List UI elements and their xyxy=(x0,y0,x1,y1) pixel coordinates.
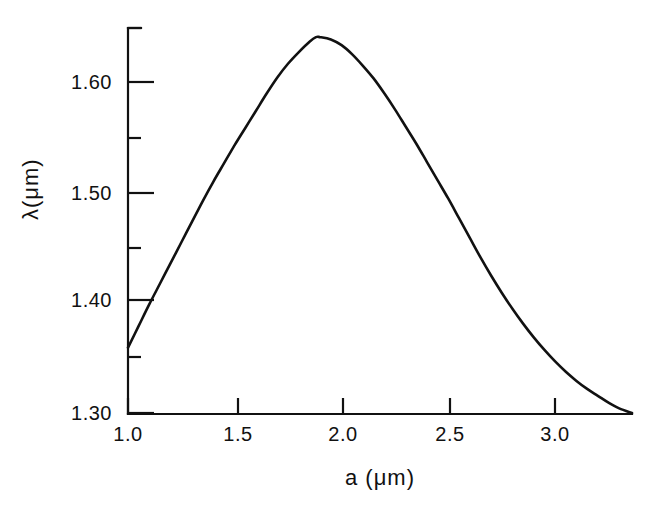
x-tick-label-2-5: 2.5 xyxy=(435,423,464,446)
y-tick-label-1-30: 1.30 xyxy=(46,402,112,425)
x-tick-label-2-0: 2.0 xyxy=(328,423,357,446)
data-curve-lambda-vs-a xyxy=(128,37,632,413)
y-tick-label-1-60: 1.60 xyxy=(46,71,112,94)
x-tick-label-1-5: 1.5 xyxy=(223,423,252,446)
x-tick-label-3-0: 3.0 xyxy=(540,423,569,446)
x-axis-title: a (μm) xyxy=(345,465,415,491)
figure-panel: 1.60 1.50 1.40 1.30 1.0 1.5 2.0 2.5 3.0 … xyxy=(0,0,664,516)
y-tick-label-1-40: 1.40 xyxy=(46,289,112,312)
x-tick-label-1-0: 1.0 xyxy=(113,423,142,446)
x-major-ticks xyxy=(128,398,555,414)
y-axis-title: λ(μm) xyxy=(18,158,44,220)
y-tick-label-1-50: 1.50 xyxy=(46,182,112,205)
